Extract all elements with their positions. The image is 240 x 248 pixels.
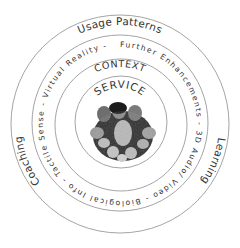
service-context-diagram: Usage Patterns Learning Coaching Further…: [0, 0, 240, 248]
diagram-canvas: Usage Patterns Learning Coaching Further…: [0, 0, 240, 248]
coaching-label: Coaching: [12, 135, 42, 188]
learning-label: Learning: [199, 137, 228, 187]
group-photo: [90, 102, 156, 162]
context-label: CONTEXT: [92, 58, 147, 74]
usage-patterns-label: Usage Patterns: [76, 15, 165, 36]
